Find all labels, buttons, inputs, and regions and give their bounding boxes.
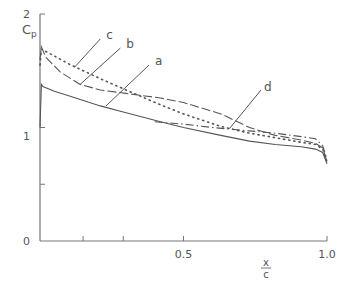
series-label-b: b (126, 37, 134, 51)
series-label-c: c (106, 28, 113, 42)
cp-chart: 0.51.0012 abcd Cp x c (0, 0, 346, 283)
series-b-line (40, 47, 327, 162)
axes: 0.51.0012 (23, 8, 336, 261)
series-label-d: d (264, 80, 272, 94)
x-axis-label: x c (261, 257, 271, 280)
series-d-line (155, 122, 327, 160)
annotations: abcd (74, 28, 271, 129)
svg-text:c: c (263, 269, 269, 280)
leader-line-a (106, 65, 149, 106)
y-tick-label: 0 (23, 235, 30, 248)
leader-line-c (74, 39, 100, 67)
y-tick-label: 2 (23, 8, 30, 21)
x-tick-label: 1.0 (318, 248, 336, 261)
y-axis-label: Cp (22, 22, 37, 39)
series-a-line (40, 84, 327, 163)
x-tick-label: 0.5 (175, 248, 193, 261)
series-label-a: a (155, 54, 162, 68)
svg-text:x: x (263, 257, 269, 268)
series-group (40, 47, 327, 164)
y-tick-label: 1 (23, 130, 30, 143)
leader-line-b (80, 48, 120, 84)
leader-line-d (229, 90, 261, 129)
